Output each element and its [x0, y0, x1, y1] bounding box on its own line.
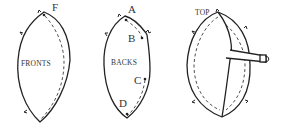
- point-label-c: C: [134, 74, 141, 86]
- point-label-d: D: [119, 97, 127, 109]
- piece-label-fronts: FRONTS: [21, 59, 51, 68]
- point-label-a: A: [128, 3, 136, 15]
- point-label-b: B: [128, 32, 135, 44]
- piece-label-backs: BACKS: [111, 58, 137, 67]
- piece-label-top: TOP: [195, 8, 210, 17]
- point-label-f: F: [52, 1, 58, 13]
- assembled-piece: [187, 9, 269, 117]
